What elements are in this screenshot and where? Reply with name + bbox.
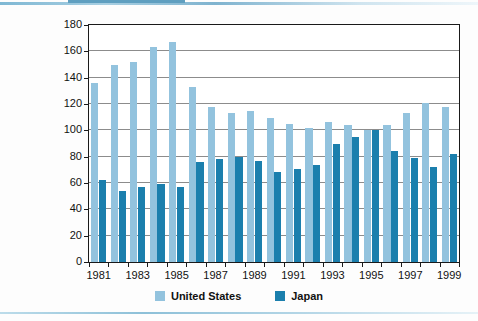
- bar-group: [169, 25, 184, 262]
- bar-group: [344, 25, 359, 262]
- bar-japan-1993: [333, 144, 340, 263]
- bar-united-states-1996: [383, 125, 390, 262]
- bar-united-states-1989: [247, 111, 254, 262]
- x-tick-mark: [303, 263, 304, 267]
- x-tick-mark: [167, 263, 168, 267]
- bar-japan-1985: [177, 187, 184, 262]
- x-tick-label: 1991: [273, 269, 313, 281]
- x-tick-mark: [128, 263, 129, 267]
- y-tick-label: 140: [46, 72, 82, 83]
- bar-japan-1983: [138, 187, 145, 262]
- x-tick-label: 1995: [351, 269, 391, 281]
- y-tick-label: 180: [46, 19, 82, 30]
- bar-united-states-1987: [208, 107, 215, 262]
- bar-japan-1990: [274, 172, 281, 262]
- bar-japan-1982: [119, 191, 126, 262]
- x-tick-mark: [401, 263, 402, 267]
- y-tick-label: 40: [46, 203, 82, 214]
- legend-swatch-icon: [155, 291, 165, 301]
- bar-japan-1987: [216, 159, 223, 262]
- x-tick-label: 1989: [235, 269, 275, 281]
- x-tick-mark: [225, 263, 226, 267]
- bar-united-states-1993: [325, 122, 332, 262]
- bar-japan-1991: [294, 169, 301, 262]
- bar-group: [364, 25, 379, 262]
- x-tick-mark: [206, 263, 207, 267]
- x-tick-label: 1993: [312, 269, 352, 281]
- x-tick-mark: [459, 263, 460, 267]
- bar-group: [189, 25, 204, 262]
- y-tick-label: 80: [46, 151, 82, 162]
- bar-japan-1998: [430, 167, 437, 262]
- y-tick-label: 0: [46, 256, 82, 267]
- bar-united-states-1983: [130, 62, 137, 262]
- x-tick-label: 1987: [196, 269, 236, 281]
- x-tick-mark: [342, 263, 343, 267]
- y-tick-label: 20: [46, 230, 82, 241]
- bar-japan-1997: [411, 158, 418, 262]
- bar-group: [383, 25, 398, 262]
- x-tick-label: 1985: [157, 269, 197, 281]
- legend-label: United States: [171, 290, 241, 302]
- x-tick-label: 1999: [429, 269, 469, 281]
- bar-united-states-1999: [442, 107, 449, 262]
- x-tick-mark: [264, 263, 265, 267]
- bar-group: [111, 25, 126, 262]
- bar-group: [208, 25, 223, 262]
- bar-group: [286, 25, 301, 262]
- bar-group: [150, 25, 165, 262]
- x-tick-mark: [381, 263, 382, 267]
- bar-united-states-1992: [305, 128, 312, 262]
- bar-united-states-1997: [403, 113, 410, 262]
- x-tick-label: 1983: [118, 269, 158, 281]
- bar-united-states-1982: [111, 65, 118, 263]
- bar-japan-1992: [313, 165, 320, 262]
- bar-group: [305, 25, 320, 262]
- bar-united-states-1988: [228, 113, 235, 262]
- bar-united-states-1995: [364, 130, 371, 262]
- bar-japan-1994: [352, 137, 359, 262]
- bar-united-states-1991: [286, 124, 293, 262]
- bar-japan-1988: [235, 157, 242, 262]
- bar-group: [91, 25, 106, 262]
- bar-japan-1995: [372, 130, 379, 262]
- y-tick-label: 60: [46, 177, 82, 188]
- chart-page: 020406080100120140160180 198119831985198…: [0, 0, 478, 321]
- bar-series-layer: [89, 25, 459, 262]
- x-tick-mark: [245, 263, 246, 267]
- bar-united-states-1994: [344, 125, 351, 262]
- legend-swatch-icon: [275, 291, 285, 301]
- chart-legend: United StatesJapan: [0, 290, 478, 302]
- bar-united-states-1998: [422, 103, 429, 262]
- x-tick-label: 1981: [79, 269, 119, 281]
- bar-group: [422, 25, 437, 262]
- bar-united-states-1985: [169, 42, 176, 262]
- bar-japan-1989: [255, 161, 262, 262]
- bar-united-states-1986: [189, 87, 196, 262]
- x-tick-mark: [89, 263, 90, 267]
- bar-united-states-1990: [267, 118, 274, 262]
- bar-japan-1999: [450, 154, 457, 262]
- x-tick-mark: [284, 263, 285, 267]
- bar-group: [325, 25, 340, 262]
- y-tick-label: 100: [46, 124, 82, 135]
- bar-japan-1996: [391, 151, 398, 262]
- x-tick-mark: [440, 263, 441, 267]
- x-tick-mark: [420, 263, 421, 267]
- legend-item-japan: Japan: [275, 290, 323, 302]
- x-tick-mark: [323, 263, 324, 267]
- bar-japan-1986: [196, 162, 203, 262]
- bar-japan-1981: [99, 180, 106, 262]
- bar-group: [267, 25, 282, 262]
- x-tick-mark: [108, 263, 109, 267]
- x-tick-mark: [362, 263, 363, 267]
- bar-united-states-1981: [91, 83, 98, 262]
- y-tick-label: 120: [46, 98, 82, 109]
- bar-group: [247, 25, 262, 262]
- x-tick-mark: [186, 263, 187, 267]
- y-tick-label: 160: [46, 45, 82, 56]
- x-tick-label: 1997: [390, 269, 430, 281]
- legend-item-united-states: United States: [155, 290, 241, 302]
- bar-group: [442, 25, 457, 262]
- bar-group: [228, 25, 243, 262]
